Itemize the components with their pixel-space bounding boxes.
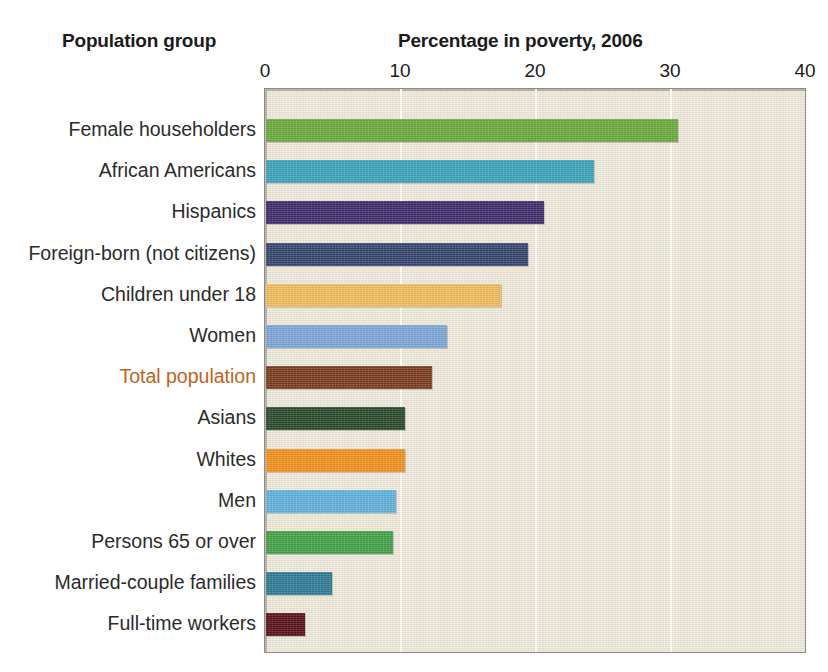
bar-married-couple-families	[266, 572, 332, 595]
bar-texture	[266, 119, 678, 142]
x-axis-tick-10: 10	[389, 60, 410, 82]
category-label-men: Men	[0, 489, 256, 512]
bar-african-americans	[266, 160, 594, 183]
x-axis-tick-40: 40	[794, 60, 815, 82]
bar-hispanics	[266, 201, 544, 224]
bar-total-population	[266, 366, 432, 389]
category-labels: Female householdersAfrican AmericansHisp…	[0, 88, 256, 653]
x-axis-tick-20: 20	[524, 60, 545, 82]
category-label-married-couple-families: Married-couple families	[0, 571, 256, 594]
category-label-persons-65-or-over: Persons 65 or over	[0, 530, 256, 553]
bar-texture	[266, 160, 594, 183]
bar-texture	[266, 284, 501, 307]
bar-texture	[266, 201, 544, 224]
poverty-bar-chart-figure: Population group Percentage in poverty, …	[0, 0, 828, 672]
category-label-female-householders: Female householders	[0, 118, 256, 141]
x-axis-tick-labels: 010203040	[0, 60, 828, 86]
bar-men	[266, 490, 396, 513]
bar-female-householders	[266, 119, 678, 142]
bar-women	[266, 325, 447, 348]
category-label-asians: Asians	[0, 406, 256, 429]
bar-texture	[266, 572, 332, 595]
bar-texture	[266, 243, 528, 266]
category-label-total-population: Total population	[0, 365, 256, 388]
x-axis-tick-30: 30	[659, 60, 680, 82]
bars-container	[265, 89, 805, 652]
bar-children-under-18	[266, 284, 501, 307]
bar-texture	[266, 531, 393, 554]
bar-texture	[266, 490, 396, 513]
category-label-hispanics: Hispanics	[0, 200, 256, 223]
category-label-children-under-18: Children under 18	[0, 283, 256, 306]
bar-texture	[266, 407, 405, 430]
category-label-full-time-workers: Full-time workers	[0, 612, 256, 635]
bar-persons-65-or-over	[266, 531, 393, 554]
bar-texture	[266, 613, 305, 636]
x-axis-tick-0: 0	[260, 60, 271, 82]
column-header-population-group: Population group	[62, 30, 216, 52]
bar-texture	[266, 366, 432, 389]
category-label-women: Women	[0, 324, 256, 347]
bar-asians	[266, 407, 405, 430]
bar-whites	[266, 449, 405, 472]
plot-area	[264, 88, 806, 653]
bar-foreign-born-not-citizens	[266, 243, 528, 266]
category-label-foreign-born-not-citizens: Foreign-born (not citizens)	[0, 242, 256, 265]
bar-texture	[266, 449, 405, 472]
category-label-african-americans: African Americans	[0, 159, 256, 182]
category-label-whites: Whites	[0, 448, 256, 471]
bar-texture	[266, 325, 447, 348]
chart-title-percentage-in-poverty: Percentage in poverty, 2006	[398, 30, 643, 52]
bar-full-time-workers	[266, 613, 305, 636]
